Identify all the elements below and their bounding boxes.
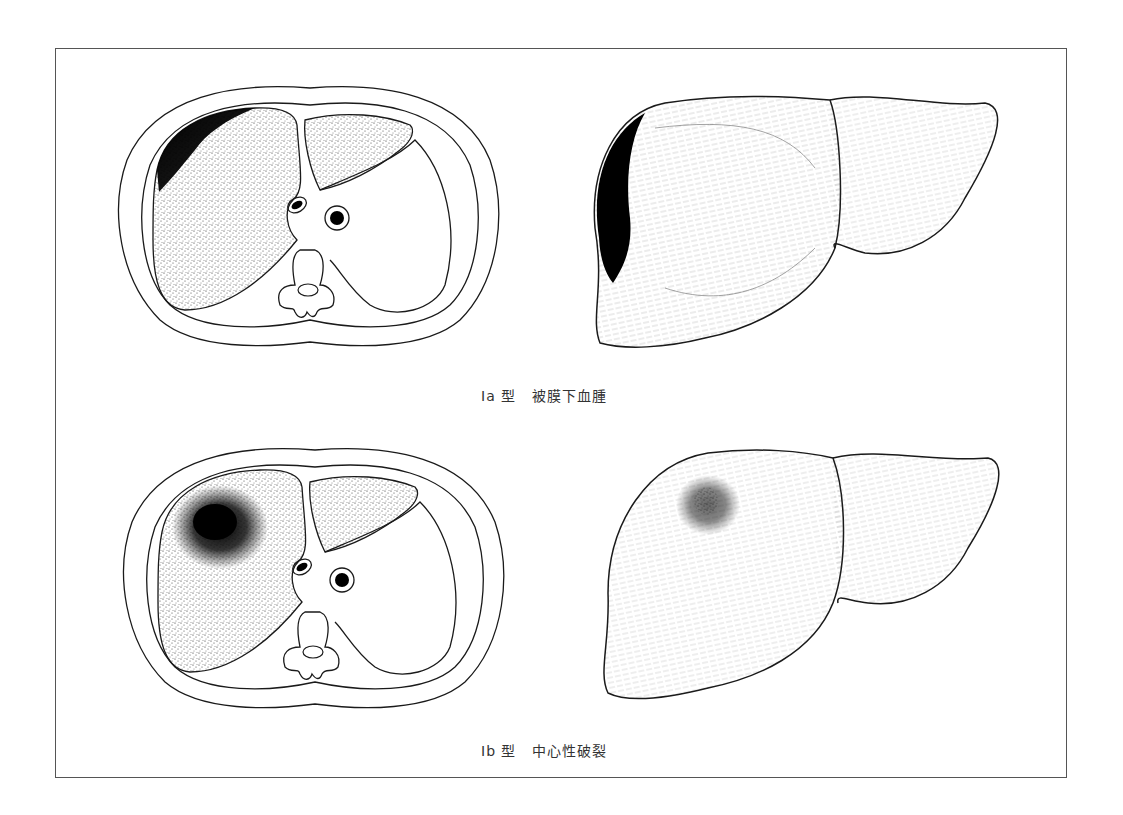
liver-surface-central-rupture-icon <box>598 443 1008 708</box>
liver-surface-subcapsular-hematoma-icon <box>585 88 1005 358</box>
type-description: 中心性破裂 <box>532 743 607 759</box>
type-description: 被膜下血腫 <box>532 388 607 404</box>
caption-ib: Ib 型中心性破裂 <box>481 740 607 760</box>
liver-cross-section-central-rupture-icon <box>120 442 510 712</box>
caption-ia: Ia 型被膜下血腫 <box>481 385 607 405</box>
type-label: Ia 型 <box>481 388 516 404</box>
liver-cross-section-subcapsular-hematoma-icon <box>115 80 505 355</box>
type-label: Ib 型 <box>481 743 516 759</box>
